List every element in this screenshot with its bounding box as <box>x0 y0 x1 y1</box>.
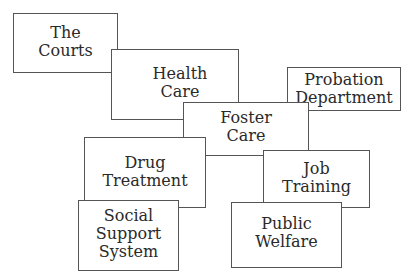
box-label: Social Support System <box>96 207 161 261</box>
box-label: Health Care <box>153 65 208 101</box>
box-label: The Courts <box>38 24 92 60</box>
box-label: Public Welfare <box>255 215 317 251</box>
box-job-training: Job Training <box>263 150 370 208</box>
box-public-welfare: Public Welfare <box>231 202 342 268</box>
box-label: Foster Care <box>220 109 272 145</box>
box-the-courts: The Courts <box>13 13 118 73</box>
box-label: Drug Treatment <box>102 154 187 190</box>
box-drug-treatment: Drug Treatment <box>84 137 206 208</box>
box-social-support-system: Social Support System <box>78 200 179 271</box>
box-label: Probation Department <box>295 71 393 107</box>
box-label: Job Training <box>282 160 351 196</box>
